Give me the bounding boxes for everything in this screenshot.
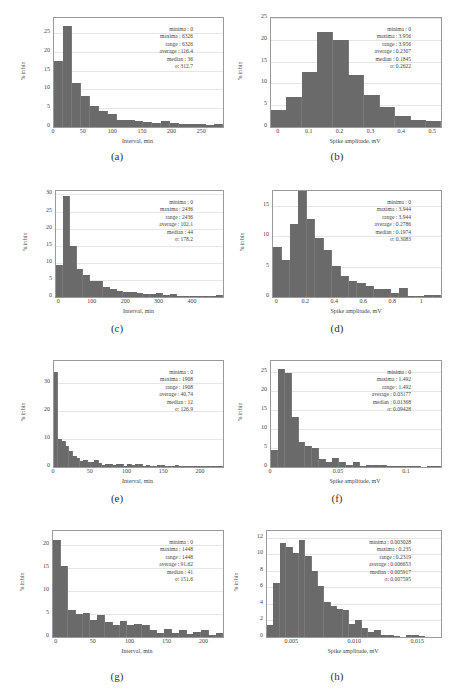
histogram-bar — [333, 40, 349, 127]
y-tick-label: 5 — [36, 103, 50, 109]
gridline — [271, 372, 441, 373]
x-tick-label: 200 — [192, 638, 216, 644]
stat-average: average : 0.2786 — [375, 221, 412, 228]
stat-sigma: σ: 151.6 — [159, 576, 193, 583]
x-tick-label: 0 — [44, 638, 68, 644]
stats-box: minima : 0maxima : 2436range : 2436avera… — [159, 199, 193, 243]
stat-range: range : 1448 — [159, 554, 193, 561]
y-tick-label: 5 — [255, 262, 269, 268]
histogram-bar — [348, 75, 364, 127]
stat-median: median : 0.1974 — [375, 229, 412, 236]
x-tick-label: 200 — [188, 468, 212, 474]
y-tick-label: 5 — [253, 100, 267, 106]
gridline — [267, 538, 441, 539]
x-axis-label: Interval, min — [55, 308, 222, 314]
stat-average: average : 102.1 — [159, 221, 193, 228]
x-tick-label: 0 — [46, 298, 70, 304]
x-tick-label: 0 — [41, 128, 65, 134]
stat-minima: minima : 0 — [159, 539, 193, 546]
histogram-bar — [395, 116, 411, 127]
gridline — [53, 568, 223, 569]
y-tick-label: 15 — [35, 563, 49, 569]
x-tick-label: 200 — [113, 298, 137, 304]
x-axis-label: Interval, min — [52, 648, 222, 654]
y-tick-label: 6 — [249, 582, 263, 588]
x-axis-label: Spike amplitude, mV — [270, 138, 440, 144]
y-axis-label: % in bin — [237, 392, 243, 432]
stat-sigma: σ: 0.007595 — [369, 576, 411, 583]
stat-average: average : 0.006653 — [369, 561, 411, 568]
histogram-plot-f: minima : 0maxima : 1.492range : 1.492ave… — [270, 360, 442, 468]
histogram-plot-c: minima : 0maxima : 2436range : 2436avera… — [55, 190, 224, 298]
x-tick-label: 300 — [147, 298, 171, 304]
y-tick-label: 25 — [38, 207, 52, 213]
x-tick-label: 0.6 — [351, 298, 375, 304]
panel-caption-c: (c) — [97, 322, 137, 334]
y-axis-label: % in bin — [20, 51, 26, 91]
y-tick-label: 25 — [253, 367, 267, 373]
y-tick-label: 15 — [255, 201, 269, 207]
stat-average: average : 116.4 — [159, 48, 193, 55]
stat-range: range : 6326 — [159, 41, 193, 48]
stat-average: average : 0.2307 — [375, 48, 412, 55]
y-tick-label: 10 — [255, 231, 269, 237]
gridline — [271, 40, 441, 41]
x-tick-label: 0.1 — [394, 468, 418, 474]
histogram-plot-g: minima : 0maxima : 1448range : 1448avera… — [52, 530, 224, 638]
y-tick-label: 0 — [249, 632, 263, 638]
stat-maxima: maxima : 3.944 — [375, 206, 412, 213]
x-tick-label: 100 — [100, 128, 124, 134]
y-tick-label: 2 — [249, 615, 263, 621]
y-tick-label: 12 — [249, 533, 263, 539]
histogram-bar — [271, 110, 287, 127]
y-tick-label: 5 — [35, 609, 49, 615]
gridline — [271, 18, 441, 19]
y-tick-label: 25 — [253, 13, 267, 19]
stat-sigma: σ: 178.2 — [159, 236, 193, 243]
histogram-bar — [364, 95, 380, 127]
stat-average: average : 40.74 — [159, 391, 193, 398]
stat-maxima: maxima : 1908 — [159, 376, 193, 383]
y-tick-label: 10 — [249, 549, 263, 555]
x-tick-label: 50 — [71, 128, 95, 134]
panel-caption-g: (g) — [97, 670, 137, 682]
y-tick-label: 10 — [253, 424, 267, 430]
histogram-plot-h: minima : 0.003028maxima : 0.235range : 0… — [266, 530, 442, 638]
stat-minima: minima : 0.003028 — [369, 539, 411, 546]
y-axis-label: % in bin — [19, 562, 25, 602]
x-tick-label: 250 — [189, 128, 213, 134]
y-tick-label: 30 — [36, 378, 50, 384]
stat-minima: minima : 0 — [159, 26, 193, 33]
x-tick-label: 100 — [118, 638, 142, 644]
y-axis-label: % in bin — [22, 222, 28, 262]
x-tick-label: 0 — [41, 468, 65, 474]
x-tick-label: 150 — [151, 468, 175, 474]
histogram-bar — [434, 466, 441, 467]
x-tick-label: 0.4 — [389, 128, 413, 134]
stat-median: median : 0.1845 — [375, 56, 412, 63]
x-tick-label: 0 — [266, 128, 290, 134]
stats-box: minima : 0maxima : 6326range : 6326avera… — [159, 26, 193, 70]
y-tick-label: 20 — [38, 224, 52, 230]
gridline — [54, 439, 223, 440]
gridline — [53, 545, 223, 546]
y-tick-label: 25 — [36, 28, 50, 34]
gridline — [271, 62, 441, 63]
stat-range: range : 3.944 — [375, 214, 412, 221]
gridline — [54, 411, 223, 412]
histogram-bar — [216, 295, 223, 297]
histogram-bar — [216, 633, 224, 637]
stat-minima: minima : 0 — [375, 26, 412, 33]
y-tick-label: 10 — [35, 586, 49, 592]
stat-range: range : 0.2319 — [369, 554, 411, 561]
histogram-bar — [426, 121, 442, 127]
x-axis-label: Interval, min — [53, 478, 222, 484]
stat-average: average : 0.03177 — [372, 391, 411, 398]
y-tick-label: 20 — [36, 47, 50, 53]
stat-minima: minima : 0 — [159, 369, 193, 376]
histogram-bar — [286, 97, 302, 127]
stat-median: median : 0.01368 — [372, 399, 411, 406]
histogram-plot-e: minima : 0maxima : 1908range : 1908avera… — [53, 360, 224, 468]
y-tick-label: 10 — [36, 434, 50, 440]
y-tick-label: 5 — [38, 275, 52, 281]
